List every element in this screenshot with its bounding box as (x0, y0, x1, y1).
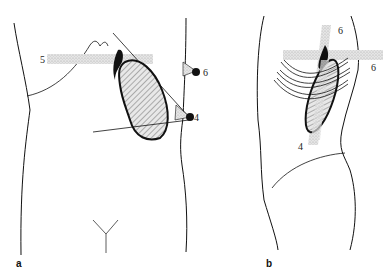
marker-label-6-top: 6 (338, 25, 343, 36)
pubic-y-mark (93, 220, 118, 253)
marker-label-4: 4 (194, 112, 199, 123)
marker-label-4: 4 (298, 141, 303, 152)
panel-label-a: a (16, 258, 22, 269)
torso-right-outline (181, 18, 187, 252)
stippled-band-horizontal (283, 50, 383, 60)
dot-marker-4 (186, 113, 194, 121)
torso-left-outline (14, 23, 30, 255)
marker-label-6-right: 6 (371, 62, 376, 73)
dot-marker-6 (192, 68, 200, 76)
diagram-canvas: 5 6 4 a 6 6 (0, 0, 390, 279)
panel-a: 5 6 4 a (14, 18, 208, 269)
panel-b: 6 6 4 b (257, 16, 383, 269)
hip-curve (272, 153, 345, 188)
rib-margin-line (27, 41, 108, 96)
body-left-outline (257, 16, 278, 250)
marker-label-6: 6 (203, 67, 208, 78)
panel-label-b: b (266, 258, 272, 269)
marker-label-5: 5 (40, 54, 45, 65)
